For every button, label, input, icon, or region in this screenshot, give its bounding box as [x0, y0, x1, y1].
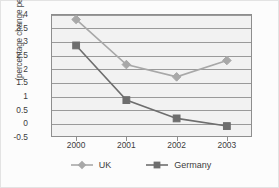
x-tick-mark [177, 137, 178, 141]
legend-label: UK [99, 160, 112, 170]
y-tick-label: 1 [0, 91, 28, 101]
x-tick-label: 2003 [205, 140, 249, 150]
x-tick-label: 2002 [155, 140, 199, 150]
y-tick-label: 2 [0, 64, 28, 74]
x-tick-mark [227, 137, 228, 141]
chart-legend: UKGermany [1, 159, 279, 171]
data-point-germany-2002 [173, 115, 180, 122]
y-tick-label: 3.5 [0, 23, 28, 33]
y-tick-label: 4 [0, 9, 28, 19]
x-tick-mark [126, 137, 127, 141]
data-point-uk-2003 [223, 56, 232, 65]
chart-figure: (percentage change per annum) 43.532.521… [0, 0, 279, 188]
y-tick-label: 0 [0, 118, 28, 128]
legend-item-uk[interactable]: UK [70, 159, 112, 171]
y-tick-label: 0.5 [0, 105, 28, 115]
data-series-layer [51, 14, 252, 137]
data-point-germany-2000 [73, 42, 80, 49]
y-tick-label: 3 [0, 36, 28, 46]
y-tick-label: 1.5 [0, 77, 28, 87]
data-point-germany-2003 [223, 123, 230, 130]
y-tick-label: -0.5 [0, 132, 28, 142]
x-tick-label: 2001 [104, 140, 148, 150]
data-point-germany-2001 [123, 97, 130, 104]
legend-swatch-square-icon [145, 159, 169, 171]
legend-label: Germany [174, 160, 211, 170]
x-tick-label: 2000 [54, 140, 98, 150]
series-line-germany [76, 45, 227, 126]
y-tick-label: 2.5 [0, 50, 28, 60]
legend-item-germany[interactable]: Germany [145, 159, 211, 171]
series-line-uk [76, 19, 227, 76]
x-tick-mark [76, 137, 77, 141]
data-point-uk-2002 [172, 73, 181, 82]
legend-swatch-diamond-icon [70, 159, 94, 171]
